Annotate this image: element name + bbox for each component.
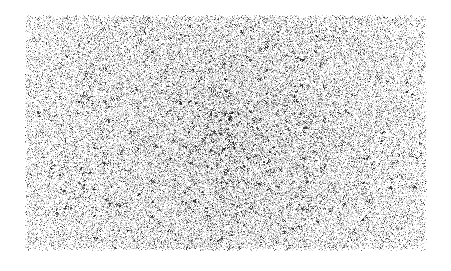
image-canvas-stage bbox=[0, 0, 451, 271]
noise-texture-canvas bbox=[24, 14, 428, 252]
